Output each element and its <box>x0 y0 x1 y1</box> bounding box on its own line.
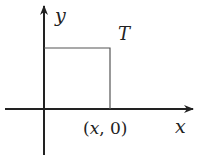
region-label: T <box>118 23 132 44</box>
y-axis-label: y <box>54 4 66 26</box>
coordinate-diagram: y x T (x, 0) <box>0 0 213 163</box>
corner-point-label: (x, 0) <box>83 118 128 138</box>
x-axis-label: x <box>175 115 186 137</box>
square-region <box>44 48 110 109</box>
